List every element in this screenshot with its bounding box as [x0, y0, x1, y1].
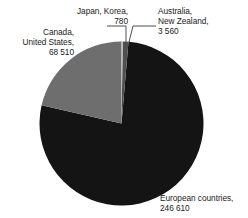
- pie-label-european-countries-line1: European countries,: [160, 193, 248, 203]
- pie-label-australia-new-zealand-line2: New Zealand,: [158, 16, 246, 26]
- pie-label-canada-united-states-line1: Canada,: [0, 27, 74, 37]
- pie-label-australia-new-zealand-value: 3 560: [158, 26, 246, 36]
- pie-label-australia-new-zealand-line1: Australia,: [158, 6, 246, 16]
- pie-label-canada-united-states: Canada, United States, 68 510: [0, 27, 74, 58]
- leader-line-japan-korea: [107, 26, 126, 42]
- pie-label-japan-korea-value: 780: [50, 16, 128, 26]
- pie-label-canada-united-states-value: 68 510: [0, 47, 74, 57]
- pie-label-australia-new-zealand: Australia, New Zealand, 3 560: [158, 6, 246, 37]
- pie-chart-figure: Canada, United States, 68 510 Japan, Kor…: [0, 0, 248, 218]
- pie-label-japan-korea: Japan, Korea, 780: [50, 6, 128, 26]
- pie-label-japan-korea-line1: Japan, Korea,: [50, 6, 128, 16]
- pie-label-european-countries: European countries, 246 610: [160, 193, 248, 213]
- pie-label-canada-united-states-line2: United States,: [0, 37, 74, 47]
- pie-label-european-countries-value: 246 610: [160, 203, 248, 213]
- leader-line-australia-new-zealand: [129, 26, 156, 42]
